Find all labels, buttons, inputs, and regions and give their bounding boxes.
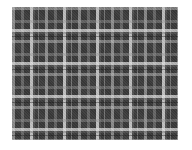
twill-texture bbox=[12, 7, 178, 140]
image-canvas bbox=[0, 0, 192, 150]
plaid-swatch bbox=[12, 7, 178, 140]
